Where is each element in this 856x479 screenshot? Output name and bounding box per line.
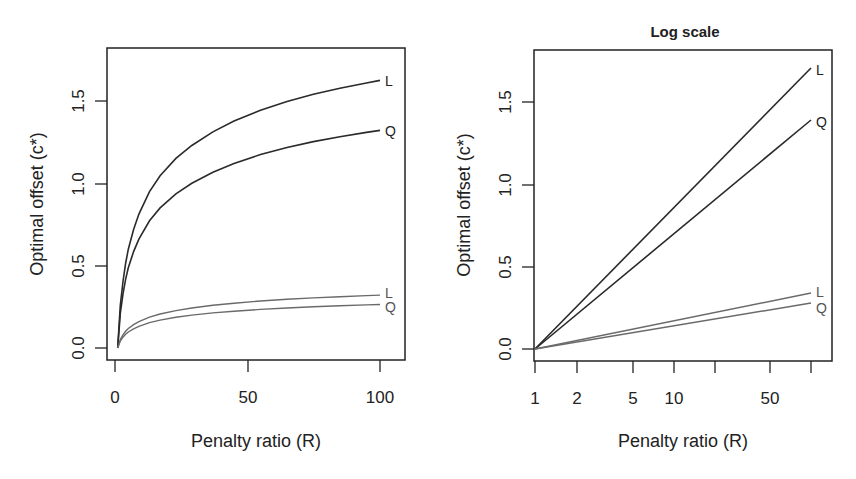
left-curve-L-upper: [118, 80, 380, 348]
right-line-Q-lower: [535, 303, 811, 349]
figure: 0.0 0.5 1.0 1.5 Optimal offset (c*) 0 50…: [0, 0, 856, 479]
right-y-axis: 0.0 0.5 1.0 1.5 Optimal offset (c*): [454, 90, 534, 361]
right-line-L-upper: [535, 68, 811, 349]
left-plot-frame: [107, 48, 405, 360]
left-xtick-label: 0: [110, 388, 119, 407]
right-panel-title: Log scale: [650, 23, 719, 40]
right-line-label-L-lower: L: [816, 284, 824, 300]
left-x-axis: 0 50 100 Penalty ratio (R): [110, 360, 394, 451]
left-line-label-L-upper: L: [385, 73, 393, 89]
right-line-label-Q-lower: Q: [816, 300, 827, 316]
left-curve-Q-lower: [118, 305, 380, 349]
left-line-label-Q-lower: Q: [385, 299, 396, 315]
right-xtick-label: 50: [761, 389, 780, 408]
right-line-L-lower: [535, 293, 811, 349]
right-x-axis-label: Penalty ratio (R): [618, 431, 748, 451]
right-ytick-label: 0.5: [496, 255, 515, 279]
right-plot-frame: [534, 50, 832, 361]
left-y-axis: 0.0 0.5 1.0 1.5 Optimal offset (c*): [27, 89, 107, 360]
left-ytick-label: 0.0: [69, 336, 88, 360]
left-ytick-label: 1.0: [69, 172, 88, 196]
right-xtick-label: 10: [665, 389, 684, 408]
right-line-label-Q-upper: Q: [816, 114, 827, 130]
left-xtick-label: 100: [366, 388, 394, 407]
right-xtick-label: 5: [628, 389, 637, 408]
left-x-axis-label: Penalty ratio (R): [191, 431, 321, 451]
right-ytick-label: 0.0: [496, 337, 515, 361]
left-panel: 0.0 0.5 1.0 1.5 Optimal offset (c*) 0 50…: [27, 48, 405, 451]
left-y-axis-label: Optimal offset (c*): [27, 132, 47, 276]
left-ytick-label: 0.5: [69, 254, 88, 278]
left-curve-L-lower: [118, 295, 380, 348]
right-ytick-label: 1.5: [496, 90, 515, 114]
right-xtick-label: 2: [572, 389, 581, 408]
right-ytick-label: 1.0: [496, 173, 515, 197]
left-line-label-Q-upper: Q: [385, 123, 396, 139]
left-xtick-label: 50: [239, 388, 258, 407]
left-ytick-label: 1.5: [69, 89, 88, 113]
right-x-axis: 1 2 5 10 50 Penalty ratio (R): [530, 361, 811, 451]
right-panel: Log scale 0.0 0.5 1.0 1.5 Optimal offset…: [454, 23, 832, 451]
right-y-axis-label: Optimal offset (c*): [454, 133, 474, 277]
right-line-label-L-upper: L: [816, 62, 824, 78]
right-xtick-label: 1: [530, 389, 539, 408]
right-line-Q-upper: [535, 120, 811, 349]
